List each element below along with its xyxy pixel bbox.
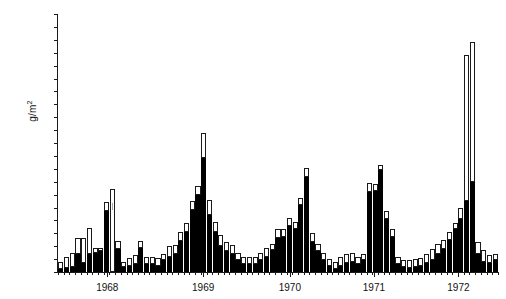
bar [447,232,452,272]
bar [87,228,92,272]
x-axis-tick [121,272,122,275]
bar [458,208,463,273]
bar [293,222,298,272]
bar-segment-solid [464,201,469,272]
bar-segment-open [447,232,452,240]
bar-segment-solid [338,266,343,272]
bar-segment-solid [373,191,378,272]
x-axis-tick [155,272,156,275]
bar [367,183,372,272]
bar [115,241,120,272]
y-axis-tick-mark [54,14,58,15]
x-axis-tick [224,272,225,275]
bar [218,235,223,272]
x-axis-tick [469,272,470,275]
x-axis-tick [264,272,265,275]
x-axis-tick [367,272,368,275]
bar [247,257,252,272]
x-axis-tick [487,272,488,275]
bar-segment-open [395,257,400,265]
y-axis-tick-mark [54,117,58,118]
x-axis-tick [441,272,442,275]
y-axis-label-text: g/m [27,105,38,122]
bar [144,257,149,272]
plot-area: 0102030405060708090100110120130140150160… [58,14,498,272]
bar [178,232,183,272]
y-axis-tick-mark [54,233,58,234]
x-axis-tick [64,272,65,275]
bar [453,223,458,272]
bar-segment-open [441,240,446,249]
bar [373,184,378,272]
bar-segment-solid [447,240,452,272]
bar-segment-solid [333,269,338,272]
bar [344,254,349,272]
bar-segment-open [207,200,212,215]
x-axis-year-label: 1970 [260,282,320,293]
x-axis-tick [361,272,362,275]
bar-segment-solid [293,229,298,272]
bar-segment-open [224,242,229,251]
bar-segment-solid [441,249,446,272]
bar [230,245,235,272]
data-gap-annotation [112,203,113,210]
bar-segment-solid [418,266,423,272]
x-axis-tick [132,272,133,275]
y-axis-tick-mark [54,169,58,170]
bar-segment-solid [435,254,440,272]
bar [304,168,309,272]
x-axis-tick [429,272,430,275]
x-axis-tick [481,272,482,275]
bar-segment-solid [298,205,303,272]
x-axis-tick [269,272,270,275]
bar-segment-solid [253,264,258,272]
bar [81,238,86,272]
bar-segment-solid [321,260,326,272]
bar-segment-open [247,257,252,265]
bar-segment-solid [127,266,132,272]
x-axis-year-label: 1969 [173,282,233,293]
bar-segment-open [333,262,338,270]
bar-segment-solid [155,266,160,272]
bar [407,260,412,272]
x-axis-tick [332,272,333,275]
x-axis-major-tick [107,272,108,277]
bar [224,242,229,272]
bar-segment-solid [327,266,332,272]
bar-segment-open [235,253,240,261]
x-axis-tick [81,272,82,275]
bar [264,248,269,273]
x-axis-line [57,272,498,273]
bar-segment-solid [121,267,126,272]
x-axis-major-tick [203,272,204,277]
bar-segment-open [458,208,463,220]
bar-segment-solid [133,264,138,272]
bar [384,211,389,272]
bar-segment-open [184,223,189,232]
bar-segment-open [258,253,263,261]
x-axis-tick [424,272,425,275]
y-axis-tick-mark [54,143,58,144]
bar-segment-solid [115,249,120,272]
bar [58,262,63,272]
x-axis-tick [207,272,208,275]
bar [481,250,486,272]
bar [207,200,212,272]
x-axis-tick [464,272,465,275]
bar [110,189,115,272]
bar [418,258,423,272]
bar-segment-open [464,55,469,201]
bar-segment-solid [167,257,172,272]
bar [464,55,469,272]
bar [315,244,320,272]
bar [93,248,98,273]
x-axis-tick [315,272,316,275]
bar-segment-open [475,242,480,254]
bar-segment-solid [413,267,418,272]
x-axis-year-label: 1972 [428,282,488,293]
bar-segment-open [418,258,423,266]
chart-container: g/m2 01020304050607080901001101201301401… [0,0,506,299]
x-axis-tick [287,272,288,275]
bar [350,253,355,272]
x-axis-tick [475,272,476,275]
